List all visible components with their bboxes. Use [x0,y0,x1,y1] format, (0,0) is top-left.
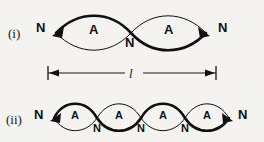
row-i-antinode-label-1: A [89,22,99,37]
row-ii-interior-node-label-2: N [137,122,145,134]
dimension-arrowhead-left [49,70,59,77]
row-i-end-node-right: N [218,20,227,35]
row-ii-roman-label: (ii) [6,112,22,127]
dimension-length-label: l [129,66,133,81]
row-i-antinode-label-2: A [164,22,174,37]
row-ii-interior-node-label-3: N [181,122,189,134]
row-ii-arrowhead-right [222,113,233,123]
row-ii-antinode-label-2: A [115,109,123,121]
row-ii-antinode-label-1: A [71,109,79,121]
dimension-arrowhead-right [205,70,215,77]
standing-wave-figure: (i) N A A N N l [0,0,264,142]
row-i-end-node-left: N [36,20,45,35]
row-i-roman-label: (i) [8,26,20,41]
row-i-interior-node-label-1: N [125,35,134,50]
row-i-arrowhead-left [52,27,64,38]
row-i-group: (i) N A A N N [8,16,227,51]
row-ii-antinode-label-4: A [203,109,211,121]
length-dimension-group: l [48,66,216,81]
figure-canvas: (i) N A A N N l [0,0,264,142]
row-ii-end-node-right: N [238,107,247,122]
row-ii-antinode-label-3: A [159,109,167,121]
row-ii-end-node-left: N [34,107,43,122]
row-ii-interior-node-label-1: N [93,122,101,134]
row-i-arrowhead-right [198,27,210,38]
row-ii-group: (ii) N A A A A N N N N [6,104,247,134]
